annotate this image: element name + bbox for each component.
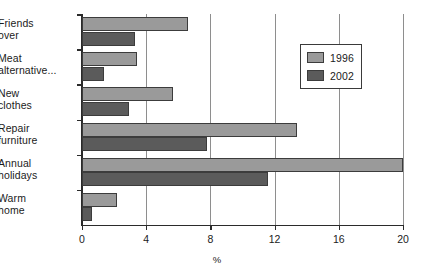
category-label-line: Friends [0, 18, 68, 30]
bar-2002 [82, 102, 129, 116]
legend-entry-2002: 2002 [307, 68, 354, 83]
category-label-line: furniture [0, 135, 68, 147]
legend-entry-1996: 1996 [307, 50, 354, 65]
x-tick-mark [210, 225, 211, 230]
category-label-line: clothes [0, 100, 68, 112]
y-tick-mark [77, 190, 82, 192]
category-label-line: Warm [0, 193, 68, 205]
category-label-meat-alternative: Meat alternative... [0, 53, 68, 76]
y-tick-mark [77, 155, 82, 157]
bar-1996 [82, 17, 188, 31]
y-tick-mark [77, 84, 82, 86]
x-tick-label: 8 [207, 233, 213, 245]
category-label-line: alternative... [0, 65, 68, 77]
category-label-line: over [0, 30, 68, 42]
category-label-friends-over: Friends over [0, 18, 68, 41]
bar-1996 [82, 52, 137, 66]
category-label-line: Annual [0, 158, 68, 170]
category-label-line: New [0, 88, 68, 100]
x-tick-mark [339, 225, 340, 230]
x-tick-mark [82, 225, 83, 230]
bar-2002 [82, 32, 135, 46]
bar-2002 [82, 207, 92, 221]
x-tick-mark [403, 225, 404, 230]
category-label-repair-furniture: Repair furniture [0, 123, 68, 146]
category-label-annual-holidays: Annual holidays [0, 158, 68, 181]
x-axis-line [81, 225, 404, 227]
gridline [210, 14, 211, 225]
legend-label: 1996 [330, 52, 354, 64]
gridline [275, 14, 276, 225]
y-tick-mark [77, 49, 82, 51]
x-tick-label: 16 [333, 233, 345, 245]
legend-swatch-icon [307, 70, 324, 81]
x-tick-label: 12 [269, 233, 281, 245]
gridline [403, 14, 404, 225]
bar-1996 [82, 123, 297, 137]
category-label-warm-home: Warm home [0, 193, 68, 216]
x-tick-mark [146, 225, 147, 230]
x-tick-label: 20 [397, 233, 409, 245]
y-tick-mark [77, 14, 82, 16]
legend: 1996 2002 [300, 44, 362, 89]
category-label-new-clothes: New clothes [0, 88, 68, 111]
legend-label: 2002 [330, 70, 354, 82]
category-label-line: holidays [0, 170, 68, 182]
bar-chart: Friends over Meat alternative... New clo… [0, 0, 426, 278]
category-label-line: Meat [0, 53, 68, 65]
bar-2002 [82, 172, 268, 186]
gridline [146, 14, 147, 225]
bar-2002 [82, 137, 207, 151]
bar-1996 [82, 158, 403, 172]
x-tick-label: 0 [79, 233, 85, 245]
category-label-line: Repair [0, 123, 68, 135]
legend-swatch-icon [307, 52, 324, 63]
x-axis-title-text: % [213, 254, 221, 265]
category-axis-labels: Friends over Meat alternative... New clo… [0, 14, 76, 225]
bar-2002 [82, 67, 104, 81]
y-tick-mark [77, 120, 82, 122]
x-tick-mark [275, 225, 276, 230]
x-axis-title: % [0, 254, 426, 265]
x-tick-label: 4 [143, 233, 149, 245]
bar-1996 [82, 87, 173, 101]
category-label-line: home [0, 205, 68, 217]
bar-1996 [82, 193, 117, 207]
